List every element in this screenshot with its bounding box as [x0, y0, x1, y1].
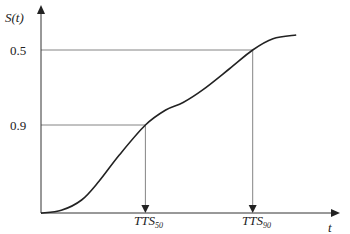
tts50-label: TTS50 — [134, 213, 163, 230]
survival-curve — [41, 35, 296, 213]
y-axis-label: S(t) — [5, 10, 24, 25]
x-axis-arrow-icon — [331, 209, 340, 217]
survival-diagram: S(t) t 0.9 0.5 TTS50 TTS90 — [0, 0, 350, 234]
y-tick-label-0.5: 0.5 — [10, 43, 26, 58]
down-arrow-icon-90 — [249, 205, 257, 213]
tts90-label: TTS90 — [242, 213, 271, 230]
guide-lines — [41, 50, 257, 213]
x-axis-label: t — [328, 220, 332, 234]
down-arrow-icon-50 — [141, 205, 149, 213]
y-axis-arrow-icon — [37, 5, 45, 14]
y-tick-label-0.9: 0.9 — [10, 118, 26, 133]
